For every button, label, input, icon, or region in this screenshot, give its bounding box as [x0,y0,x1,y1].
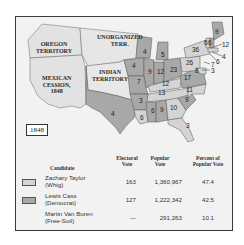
cass-popular: 1,222,342 [140,196,182,203]
label-indian-territory: INDIANTERRITORY [92,69,128,82]
ev-georgia: 10 [170,104,177,111]
ev-iowa: 4 [132,62,136,69]
ev-michigan: 5 [161,51,165,58]
ev-massachusetts: 12 [222,41,229,48]
header-popular-vote: PopularVote [148,155,172,167]
van-buren-percent: 10.1 [190,214,214,221]
ev-tennessee: 13 [158,89,165,96]
ev-missouri: 7 [137,78,141,85]
taylor-popular: 1,360,967 [140,178,182,185]
legend-swatch-democrat [22,197,36,204]
taylor-electoral: 163 [118,178,136,185]
van-buren-electoral: — [118,214,136,221]
ev-north-carolina: 11 [186,86,193,93]
ev-kentucky: 12 [162,80,169,87]
legend-swatch-whig [22,179,36,186]
header-electoral-vote: ElectoralVote [114,155,140,167]
header-candidate: Candidate [50,165,74,171]
ev-maryland: 8 [195,67,199,74]
candidate-cass: Lewis Cass(Democrat) [45,193,77,206]
ev-new-york: 36 [192,46,199,53]
ev-rhode-island: 4 [222,53,226,60]
ev-indiana: 12 [157,68,164,75]
label-mexican-cession: MEXICANCESSION,1848 [42,75,71,95]
header-percent-popular-vote: Percent ofPopular Vote [186,155,230,167]
year-label: 1848 [26,124,48,136]
cass-percent: 42.5 [190,196,214,203]
van-buren-popular: 291,263 [140,214,182,221]
label-unorganized-territory: UNORGANIZEDTERR. [97,34,143,47]
ev-alabama: 9 [160,106,164,113]
ev-mississippi: 6 [151,107,155,114]
ev-louisiana: 6 [140,114,144,121]
candidate-van-buren: Martin Van Buren(Free-Soil) [45,211,93,224]
ev-florida: 3 [186,122,190,129]
candidate-taylor: Zachary Taylor(Whig) [45,175,85,188]
ev-connecticut: 6 [216,58,220,65]
florida [168,118,194,142]
ev-texas: 4 [111,110,115,117]
ev-new-hampshire: 6 [208,39,212,46]
ev-virginia: 17 [184,74,191,81]
ev-arkansas: 3 [139,97,143,104]
ev-pennsylvania: 26 [186,59,193,66]
cass-electoral: 127 [118,196,136,203]
ev-illinois: 9 [148,68,152,75]
ev-south-carolina: 9 [185,96,189,103]
ev-new-jersey: 7 [211,61,215,68]
ev-delaware: 3 [211,67,215,74]
ev-maine: 9 [215,28,219,35]
massachusetts [208,48,218,52]
ev-wisconsin: 4 [143,48,147,55]
ev-ohio: 23 [170,66,177,73]
taylor-percent: 47.4 [190,178,214,185]
label-oregon-territory: OREGONTERRITORY [36,41,72,54]
